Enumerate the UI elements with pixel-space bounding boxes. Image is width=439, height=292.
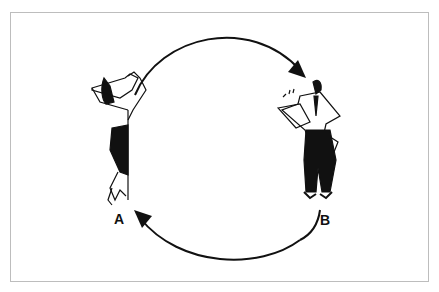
woman-figure-a	[92, 72, 146, 205]
arrowhead-down-right-icon	[288, 60, 306, 78]
top-arc-arrow	[135, 38, 306, 95]
label-a: A	[114, 211, 124, 227]
man-figure-b	[278, 80, 340, 198]
man-trousers	[304, 130, 336, 192]
bottom-arc-arrow	[134, 210, 300, 260]
right-arc-segment	[300, 210, 320, 240]
woman-skirt	[110, 125, 128, 175]
cycle-diagram	[0, 0, 439, 292]
arrowhead-up-left-icon	[134, 210, 152, 228]
label-b: B	[320, 212, 330, 228]
